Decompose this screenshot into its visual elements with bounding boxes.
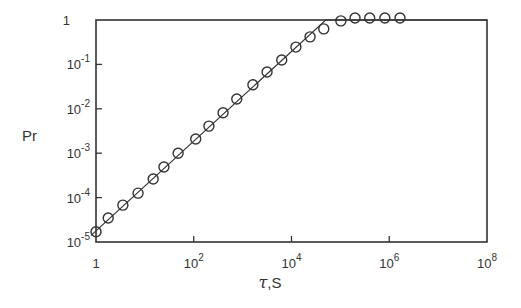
data-point-marker xyxy=(232,94,242,104)
x-tick-label: 1 xyxy=(92,256,99,271)
data-point-marker xyxy=(319,24,329,34)
x-tick-label: 102 xyxy=(184,252,204,271)
data-point-marker xyxy=(191,134,201,144)
data-point-marker xyxy=(277,55,287,65)
data-markers xyxy=(91,13,405,237)
data-point-marker xyxy=(305,32,315,42)
x-tick-label: 104 xyxy=(281,252,301,271)
data-point-marker xyxy=(262,67,272,77)
data-point-marker xyxy=(204,121,214,131)
data-point-marker xyxy=(350,13,360,23)
y-tick-label: 10-4 xyxy=(67,187,91,206)
data-point-marker xyxy=(380,13,390,23)
data-point-marker xyxy=(218,108,228,118)
data-point-marker xyxy=(248,80,258,90)
data-point-marker xyxy=(133,188,143,198)
x-axis-title: τ,S xyxy=(258,273,281,292)
y-tick-label: 1 xyxy=(63,13,70,28)
data-point-marker xyxy=(159,162,169,172)
fit-line xyxy=(91,20,487,235)
x-tick-label: 108 xyxy=(477,252,497,271)
y-tick-label: 10-1 xyxy=(67,53,91,72)
data-point-marker xyxy=(173,148,183,158)
data-point-marker xyxy=(291,42,301,52)
plot-frame xyxy=(96,20,487,242)
data-point-marker xyxy=(118,200,128,210)
y-tick-label: 10-2 xyxy=(67,98,91,117)
data-point-marker xyxy=(91,227,101,237)
data-point-marker xyxy=(365,13,375,23)
data-point-marker xyxy=(336,16,346,26)
data-point-marker xyxy=(148,174,158,184)
x-tick-label: 106 xyxy=(379,252,399,271)
y-axis-title: Pr xyxy=(22,127,37,144)
data-point-marker xyxy=(103,213,113,223)
y-tick-label: 10-3 xyxy=(67,142,91,161)
plot-border xyxy=(96,20,487,242)
data-point-marker xyxy=(395,13,405,23)
chart: 1102104106108 110-110-210-310-410-5 Pr τ… xyxy=(0,0,521,308)
y-tick-label: 10-5 xyxy=(67,231,91,250)
